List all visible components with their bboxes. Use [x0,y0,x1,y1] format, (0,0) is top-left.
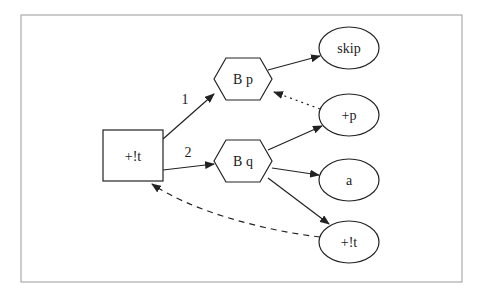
node-plust[interactable]: +!t [319,221,379,263]
node-a[interactable]: a [319,159,379,201]
node-bp-label: B p [233,72,253,87]
edge-label-1: 1 [182,92,189,107]
edge-label-2: 2 [185,145,192,160]
node-root-label: +!t [125,149,142,164]
node-skip-label: skip [337,41,360,56]
node-bq-label: B q [233,154,253,169]
node-bp[interactable]: B p [214,58,272,100]
node-root[interactable]: +!t [103,130,163,181]
node-bq[interactable]: B q [214,140,272,182]
node-a-label: a [346,173,353,188]
node-plusp[interactable]: +p [319,94,379,136]
node-plusp-label: +p [342,108,357,123]
node-skip[interactable]: skip [319,27,379,69]
diagram-canvas: 1 2 +!t B p B q skip +p a +!t [0,0,483,296]
node-plust-label: +!t [341,235,358,250]
